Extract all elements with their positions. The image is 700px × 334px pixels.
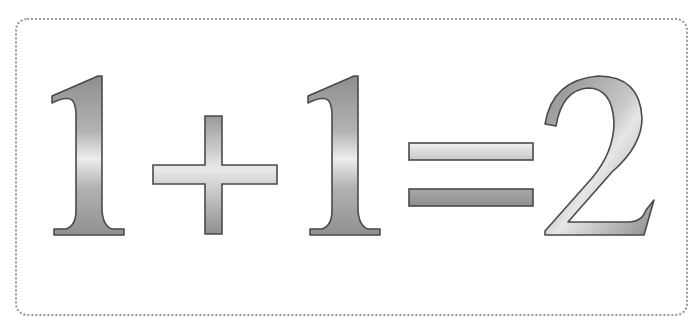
plus-sign [153,116,277,234]
digit-one-first [52,76,124,235]
digit-two [545,76,654,235]
digit-one-second [308,76,380,235]
equals-sign [409,143,533,206]
equation-graphic [0,0,700,334]
